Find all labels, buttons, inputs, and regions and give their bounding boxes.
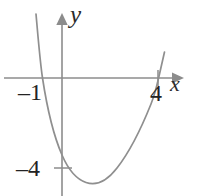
parabola-curve (36, 14, 165, 184)
x-axis-label: x (170, 73, 180, 95)
y-axis-label: y (70, 2, 81, 27)
x-tick-label-four: 4 (150, 81, 162, 105)
y-axis-arrowhead (56, 13, 67, 25)
y-tick-label-negative-four: –4 (16, 156, 40, 180)
x-tick-label-negative-one: –1 (18, 80, 42, 104)
parabola-graph-figure: y x –1 4 –4 (0, 0, 201, 196)
